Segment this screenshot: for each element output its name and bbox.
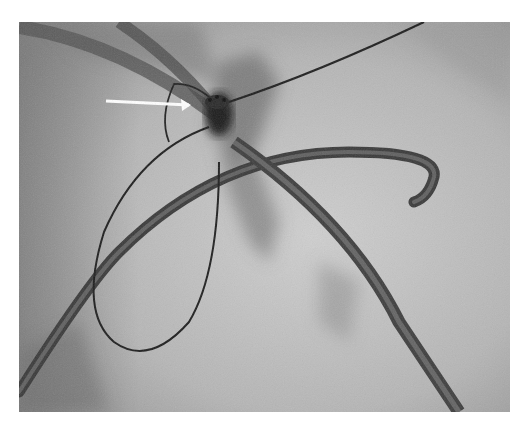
xray-canvas bbox=[19, 22, 510, 412]
fluoroscopy-image bbox=[19, 22, 510, 412]
